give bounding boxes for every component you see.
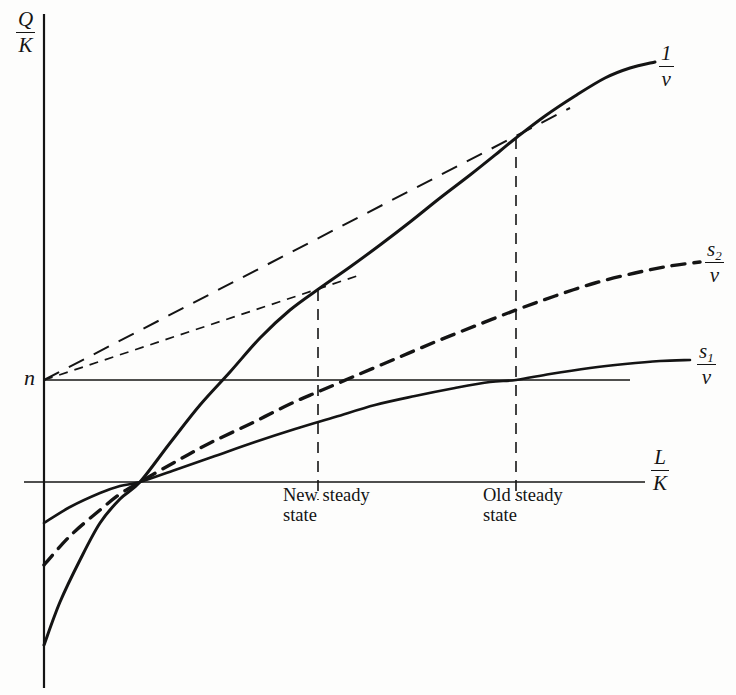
tangent-ray-tangent-to-old-steady-state (44, 108, 570, 380)
y-axis-label-numerator: Q (16, 8, 35, 32)
annotation-old-steady-state: Old steady state (483, 486, 563, 526)
x-axis-label-denominator: K (651, 470, 669, 495)
curve-one-over-v (44, 62, 655, 645)
economic-growth-diagram: Q K L K n 1 v s2 v s1 v New steady st (0, 0, 736, 695)
annotation-old-steady-state-line2: state (483, 506, 563, 526)
curve-label-s1-over-v-denominator: v (697, 364, 716, 389)
annotation-old-steady-state-line1: Old steady (483, 486, 563, 506)
curve-label-s2-over-v: s2 v (705, 238, 724, 286)
x-axis-label-numerator: L (651, 446, 669, 470)
annotation-new-steady-state: New steady state (283, 486, 370, 526)
curve-label-s2-over-v-numerator: s2 (705, 238, 724, 262)
y-axis-label: Q K (16, 8, 35, 56)
tangent-ray-tangent-to-new-steady-state (44, 275, 360, 380)
x-axis-label: L K (651, 446, 669, 494)
n-line-label: n (24, 366, 35, 390)
annotation-new-steady-state-line2: state (283, 506, 370, 526)
curve-label-one-over-v-denominator: v (659, 66, 674, 91)
curve-label-one-over-v-numerator: 1 (659, 42, 674, 66)
curve-label-one-over-v: 1 v (659, 42, 674, 90)
plot-canvas (0, 0, 736, 695)
curve-label-s1-over-v: s1 v (697, 340, 716, 388)
curve-label-s2-over-v-denominator: v (705, 262, 724, 287)
y-axis-label-denominator: K (16, 32, 35, 57)
curve-label-s1-over-v-numerator: s1 (697, 340, 716, 364)
annotation-new-steady-state-line1: New steady (283, 486, 370, 506)
curve-s2-over-v (44, 262, 700, 565)
